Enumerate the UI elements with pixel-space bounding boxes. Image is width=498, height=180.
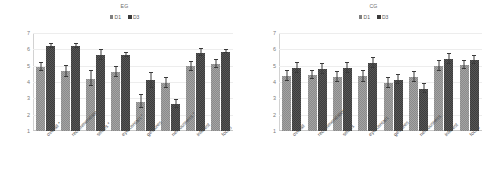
chart-legend-cg: D1 D3 — [249, 14, 498, 20]
x-label-slot: focus — [208, 132, 233, 180]
x-label-slot: gestures — [381, 132, 406, 180]
legend-label-d1: D1 — [115, 14, 121, 20]
x-label-slot: eye contact * — [108, 132, 133, 180]
error-bar-cap — [89, 85, 93, 86]
bar-d3 — [368, 33, 377, 131]
x-label-slot: smiles * — [83, 132, 108, 180]
y-axis-tick-label: 4 — [273, 79, 276, 85]
legend-label-d1: D1 — [364, 14, 370, 20]
error-bar-cap — [174, 107, 178, 108]
bar-d3 — [419, 33, 428, 131]
error-bar-cap — [335, 81, 339, 82]
error-bar — [90, 71, 91, 86]
plot-area-eg: 1234567 — [33, 33, 233, 131]
error-bar-cap — [295, 72, 299, 73]
bar-rect — [196, 53, 205, 131]
bar-group — [457, 33, 482, 131]
error-bar-cap — [124, 56, 128, 57]
error-bar-cap — [462, 60, 466, 61]
bar-d1 — [36, 33, 45, 131]
error-bar-cap — [64, 65, 68, 66]
error-bar-cap — [114, 76, 118, 77]
error-bar-cap — [285, 70, 289, 71]
y-axis-tick-label: 7 — [27, 30, 30, 36]
plot-area-cg: 1234567 — [279, 33, 482, 131]
y-axis-tick-label: 2 — [27, 112, 30, 118]
error-bar-cap — [422, 92, 426, 93]
bar-d3 — [444, 33, 453, 131]
bar-group — [304, 33, 329, 131]
error-bar-cap — [320, 63, 324, 64]
error-bar-cap — [164, 77, 168, 78]
bar-d1 — [308, 33, 317, 131]
error-bar-cap — [199, 48, 203, 49]
bar-rect — [318, 69, 327, 131]
error-bar-cap — [396, 74, 400, 75]
bar-rect — [282, 76, 291, 131]
legend-label-d3: D3 — [382, 14, 388, 20]
bar-rect — [36, 67, 45, 131]
y-axis-tick-label: 7 — [273, 30, 276, 36]
bar-group — [208, 33, 233, 131]
error-bar-cap — [361, 81, 365, 82]
bar-d3 — [171, 33, 180, 131]
error-bar-cap — [164, 87, 168, 88]
bar-rect — [460, 65, 469, 131]
error-bar-cap — [386, 87, 390, 88]
error-bar-cap — [447, 63, 451, 64]
error-bar-cap — [371, 67, 375, 68]
bar-d3 — [343, 33, 352, 131]
error-bar — [150, 73, 151, 88]
error-bar-cap — [412, 71, 416, 72]
bar-d1 — [161, 33, 170, 131]
legend-item-d1: D1 — [359, 14, 370, 20]
legend-item-d3: D3 — [377, 14, 388, 20]
figure-two-panel-bar-charts: EG D1 D3 1234567 overall *recommendation… — [0, 0, 498, 180]
x-axis-labels-eg: overall *recommendation *smiles *eye con… — [33, 132, 233, 180]
bar-d3 — [394, 33, 403, 131]
error-bar-cap — [335, 71, 339, 72]
error-bar-cap — [89, 70, 93, 71]
error-bar-cap — [139, 107, 143, 108]
y-axis-tick-label: 3 — [27, 95, 30, 101]
bar-group — [33, 33, 58, 131]
bar-rect — [409, 77, 418, 131]
x-label-slot: overall — [279, 132, 304, 180]
bar-group — [279, 33, 304, 131]
bar-rect — [292, 68, 301, 131]
error-bar-cap — [320, 73, 324, 74]
bar-rect — [470, 60, 479, 131]
error-bar-cap — [345, 72, 349, 73]
bar-group — [406, 33, 431, 131]
y-axis-tick-label: 3 — [273, 95, 276, 101]
chart-title-eg: EG — [0, 3, 249, 9]
error-bar-cap — [49, 43, 53, 44]
bar-d1 — [61, 33, 70, 131]
error-bar-cap — [114, 66, 118, 67]
error-bar-cap — [49, 47, 53, 48]
chart-panel-eg: EG D1 D3 1234567 overall *recommendation… — [0, 0, 249, 180]
bar-d3 — [146, 33, 155, 131]
bar-group — [355, 33, 380, 131]
bar-rect — [444, 59, 453, 131]
bar-d3 — [46, 33, 55, 131]
error-bar-cap — [472, 55, 476, 56]
x-label-slot: focus — [457, 132, 482, 180]
legend-item-d1: D1 — [110, 14, 121, 20]
bar-group — [58, 33, 83, 131]
x-label-slot: interest — [183, 132, 208, 180]
error-bar-cap — [310, 78, 314, 79]
chart-panel-cg: CG D1 D3 1234567 overallrecommendationsm… — [249, 0, 498, 180]
chart-title-cg: CG — [249, 3, 498, 9]
error-bar-cap — [462, 68, 466, 69]
bar-d3 — [96, 33, 105, 131]
bar-d3 — [318, 33, 327, 131]
error-bar-cap — [214, 59, 218, 60]
bar-d1 — [358, 33, 367, 131]
error-bar-cap — [99, 59, 103, 60]
legend-swatch-icon-d1 — [359, 15, 363, 19]
chart-legend-eg: D1 D3 — [0, 14, 249, 20]
error-bar-cap — [224, 49, 228, 50]
error-bar-cap — [74, 47, 78, 48]
error-bar-cap — [310, 70, 314, 71]
